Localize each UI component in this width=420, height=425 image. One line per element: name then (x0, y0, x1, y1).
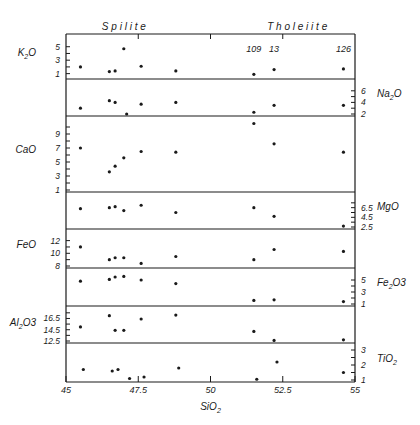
data-point (342, 338, 345, 341)
data-point (114, 275, 117, 278)
y-tick-label: 3 (361, 287, 366, 297)
y-tick-label: 3 (361, 345, 366, 355)
data-point (122, 256, 125, 259)
data-point (272, 248, 275, 251)
data-point (275, 360, 278, 363)
data-point (79, 207, 82, 210)
data-point (342, 250, 345, 253)
data-point (108, 278, 111, 281)
x-tick-label: 47.5 (129, 385, 148, 395)
x-tick-label: 45 (61, 385, 72, 395)
oxide-variation-diagram: S p i l i t eT h o l e i i t e1091312613… (0, 0, 420, 425)
data-point (255, 378, 258, 381)
data-point (252, 111, 255, 114)
y-tick-label: 6.5 (361, 203, 373, 213)
data-point (114, 329, 117, 332)
y-tick-label: 1 (55, 185, 60, 195)
sample-label: 13 (269, 44, 279, 54)
data-point (82, 368, 85, 371)
y-tick-label: 3 (55, 55, 60, 65)
data-point (342, 224, 345, 227)
y-tick-label: 14.5 (43, 325, 60, 335)
data-point (252, 206, 255, 209)
data-point (108, 170, 111, 173)
chart-svg: S p i l i t eT h o l e i i t e1091312613… (0, 0, 420, 425)
y-tick-label: 2.5 (360, 222, 373, 232)
y-tick-label: 4.5 (361, 212, 373, 222)
data-point (174, 255, 177, 258)
y-tick-label: 5 (55, 157, 60, 167)
data-point (252, 330, 255, 333)
data-point (177, 366, 180, 369)
y-tick-label: 5 (55, 42, 60, 52)
group-label-tholeiite: T h o l e i i t e (267, 21, 327, 32)
data-point (128, 377, 131, 380)
x-tick-label: 52.5 (274, 385, 293, 395)
data-point (342, 300, 345, 303)
data-point (79, 245, 82, 248)
y-tick-label: 12.5 (43, 336, 60, 346)
y-tick-label: 1 (55, 69, 60, 79)
data-point (272, 298, 275, 301)
data-point (108, 70, 111, 73)
data-point (116, 368, 119, 371)
sample-label: 109 (246, 44, 261, 54)
panel-label-mgo: MgO (377, 201, 399, 212)
y-tick-label: 12 (51, 236, 61, 246)
data-point (111, 369, 114, 372)
y-tick-label: 7 (55, 143, 60, 153)
data-point (125, 112, 128, 115)
data-point (140, 278, 143, 281)
x-tick-label: 50 (205, 385, 215, 395)
group-label-spilite: S p i l i t e (102, 21, 146, 32)
y-tick-label: 4 (361, 97, 366, 107)
data-point (79, 107, 82, 110)
x-axis-title: SiO2 (200, 401, 221, 414)
data-point (174, 282, 177, 285)
data-point (79, 65, 82, 68)
sample-label: 126 (336, 44, 351, 54)
data-point (252, 258, 255, 261)
data-point (342, 151, 345, 154)
y-tick-label: 10 (51, 248, 61, 258)
data-point (252, 299, 255, 302)
data-point (79, 325, 82, 328)
data-point (272, 68, 275, 71)
data-point (272, 104, 275, 107)
data-point (108, 314, 111, 317)
data-point (108, 258, 111, 261)
data-point (174, 151, 177, 154)
data-point (142, 375, 145, 378)
data-point (272, 339, 275, 342)
panel-label-feo: FeO (17, 239, 37, 250)
panel-label-na2o: Na2O (377, 88, 402, 101)
data-point (140, 103, 143, 106)
data-point (252, 73, 255, 76)
data-point (140, 262, 143, 265)
data-point (272, 215, 275, 218)
data-point (114, 256, 117, 259)
data-point (342, 67, 345, 70)
data-point (140, 150, 143, 153)
y-tick-label: 1 (361, 375, 366, 385)
data-point (79, 280, 82, 283)
y-tick-label: 5 (361, 275, 366, 285)
data-point (108, 99, 111, 102)
y-tick-label: 6 (361, 86, 366, 96)
data-point (108, 206, 111, 209)
data-point (122, 156, 125, 159)
data-point (174, 313, 177, 316)
data-point (114, 165, 117, 168)
data-point (122, 329, 125, 332)
panel-label-fe2o3: Fe2O3 (377, 277, 406, 290)
data-point (174, 101, 177, 104)
panel-label-cao: CaO (15, 144, 36, 155)
data-point (122, 209, 125, 212)
data-point (122, 47, 125, 50)
panel-label-tio2: TiO2 (377, 353, 397, 366)
y-tick-label: 3 (55, 171, 60, 181)
data-point (174, 69, 177, 72)
y-tick-label: 9 (55, 129, 60, 139)
data-point (140, 317, 143, 320)
y-tick-label: 8 (55, 261, 60, 271)
